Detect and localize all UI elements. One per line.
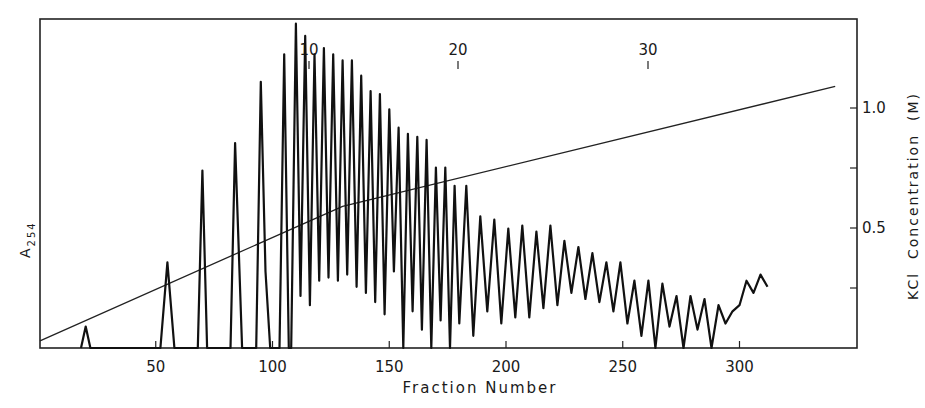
x-tick-label: 100 — [258, 358, 287, 376]
right-tick-label: 0.5 — [862, 219, 886, 237]
right-axis-ticks: 0.51.0 — [850, 99, 886, 288]
top-tick-label: 20 — [448, 41, 467, 59]
right-axis-title: KCl Concentration (M) — [905, 92, 921, 300]
chromatogram-chart: 50100150200250300 102030 0.51.0 Fraction… — [0, 0, 925, 408]
top-axis-ticks: 102030 — [299, 41, 657, 69]
x-tick-label: 50 — [146, 358, 165, 376]
svg-text:KCl Concentration (M): KCl Concentration (M) — [905, 92, 921, 300]
right-tick-label: 1.0 — [862, 99, 886, 117]
top-tick-label: 30 — [638, 41, 657, 59]
x-tick-label: 300 — [725, 358, 754, 376]
svg-text:A254: A254 — [17, 221, 37, 258]
left-axis-title: A254 — [17, 221, 37, 258]
top-tick-label: 10 — [299, 41, 318, 59]
x-tick-label: 150 — [375, 358, 404, 376]
x-tick-label: 250 — [608, 358, 637, 376]
x-tick-label: 200 — [492, 358, 521, 376]
x-axis-title: Fraction Number — [403, 379, 558, 397]
